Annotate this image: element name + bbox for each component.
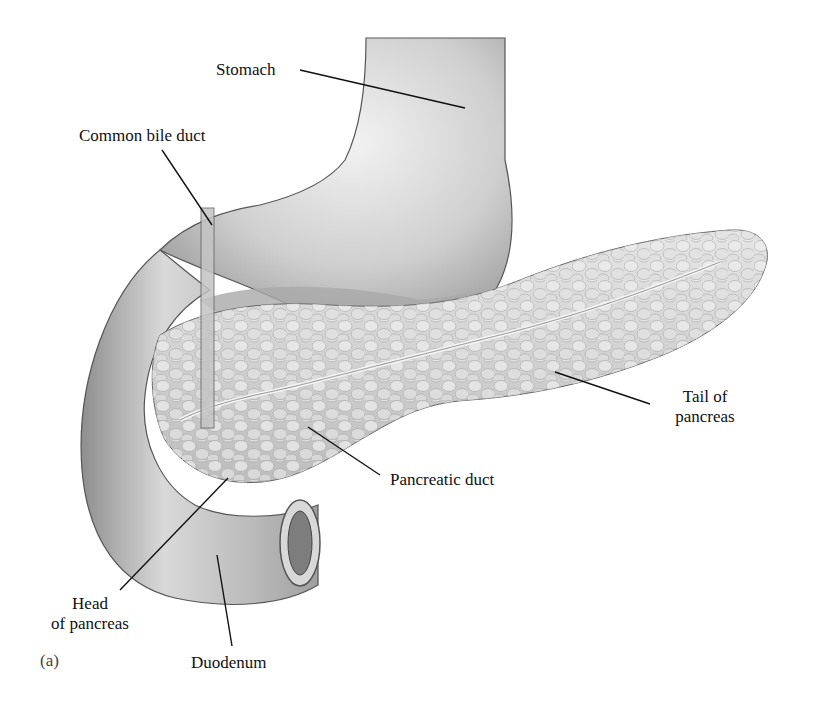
label-duodenum: Duodenum (191, 653, 267, 673)
label-common-bile-duct: Common bile duct (79, 126, 206, 146)
panel-label: (a) (40, 651, 59, 671)
label-tail-line1: Tail of (660, 387, 750, 407)
label-tail-line2: pancreas (660, 407, 750, 427)
label-stomach: Stomach (216, 60, 276, 80)
label-head-of-pancreas: Head of pancreas (30, 594, 150, 634)
label-pancreatic-duct: Pancreatic duct (390, 470, 494, 490)
label-tail-of-pancreas: Tail of pancreas (660, 387, 750, 427)
label-head-line2: of pancreas (30, 614, 150, 634)
common-bile-duct (201, 208, 214, 428)
label-head-line1: Head (30, 594, 150, 614)
